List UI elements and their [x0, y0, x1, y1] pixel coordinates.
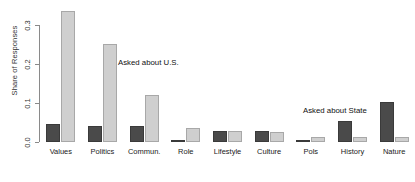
y-tick-label-1: 0.1	[23, 97, 32, 111]
bar-commun-state	[130, 126, 144, 142]
bar-lifestyle-us	[228, 131, 242, 142]
bar-group	[46, 0, 75, 142]
bar-group	[338, 0, 367, 142]
bar-group	[380, 0, 409, 142]
bar-role-state	[171, 140, 185, 142]
y-tick-label-2: 0.2	[23, 58, 32, 72]
bar-group	[130, 0, 159, 142]
bar-pols-us	[311, 137, 325, 142]
bar-role-us	[186, 128, 200, 142]
y-tick-mark-1	[35, 103, 39, 104]
bar-culture-us	[270, 132, 284, 142]
y-tick-mark-0	[35, 142, 39, 143]
bar-history-us	[353, 137, 367, 142]
x-tick-label-8: Nature	[354, 147, 415, 156]
annotation-asked-about-state: Asked about State	[303, 106, 367, 115]
bar-group	[171, 0, 200, 142]
bar-history-state	[338, 121, 352, 142]
bar-commun-us	[145, 95, 159, 142]
bar-pols-state	[296, 140, 310, 142]
bar-group	[255, 0, 284, 142]
bar-lifestyle-state	[213, 131, 227, 142]
bar-group	[213, 0, 242, 142]
bar-chart: Share of Responses 0.0 0.1 0.2 0.3 Asked…	[0, 0, 415, 182]
y-tick-mark-3	[35, 25, 39, 26]
bar-group	[88, 0, 117, 142]
bar-nature-us	[395, 137, 409, 142]
bar-culture-state	[255, 131, 269, 142]
annotation-asked-about-us: Asked about U.S.	[118, 58, 179, 67]
y-tick-mark-2	[35, 64, 39, 65]
plot-area	[40, 0, 415, 142]
bar-politics-state	[88, 126, 102, 142]
bar-group	[296, 0, 325, 142]
bar-values-state	[46, 124, 60, 142]
bar-politics-us	[103, 44, 117, 142]
bar-nature-state	[380, 102, 394, 142]
bar-values-us	[61, 11, 75, 142]
y-tick-label-3: 0.3	[23, 19, 32, 33]
y-axis-label: Share of Responses	[10, 11, 19, 111]
